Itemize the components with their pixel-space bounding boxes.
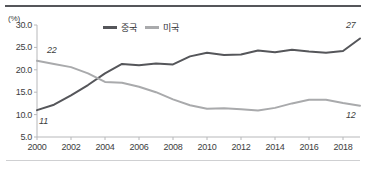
legend-item-china[interactable]: 중국: [103, 21, 136, 34]
legend-label-usa: 미국: [163, 21, 178, 34]
legend-swatch-china: [103, 26, 117, 29]
chart-figure: (%) 5.010.015.020.025.030.0 200020022004…: [0, 0, 366, 169]
y-tick-label-10.0: 10.0: [2, 110, 32, 120]
y-tick-label-25.0: 25.0: [2, 42, 32, 52]
x-tick-label-2018: 2018: [323, 142, 363, 152]
china-end-value: 27: [346, 20, 356, 30]
legend-item-usa[interactable]: 미국: [145, 21, 178, 34]
y-tick-label-30.0: 30.0: [2, 20, 32, 30]
legend-swatch-usa: [145, 26, 159, 29]
usa-start-value: 22: [47, 45, 57, 55]
chart-legend: 중국미국: [103, 21, 179, 34]
china-start-value: 11: [39, 116, 48, 126]
usa-end-value: 12: [346, 110, 356, 120]
y-tick-label-15.0: 15.0: [2, 87, 32, 97]
y-tick-label-20.0: 20.0: [2, 65, 32, 75]
legend-label-china: 중국: [121, 21, 136, 34]
y-tick-label-5.0: 5.0: [2, 132, 32, 142]
